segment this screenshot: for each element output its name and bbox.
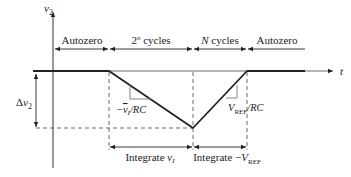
integrate-vi-label: Integrate vI <box>125 151 175 165</box>
slope-label-down: −vI/RC <box>117 104 147 117</box>
delta-v2-label: Δv2 <box>16 96 32 111</box>
phase-label-autozero-1: Autozero <box>62 34 103 46</box>
delta-v2-arrow <box>33 71 40 127</box>
phase-label-n-cycles: N cycles <box>200 34 239 46</box>
phase-label-2n-cycles: 2n cycles <box>131 34 170 46</box>
integrate-vref-label: Integrate −VREF <box>193 151 261 166</box>
integrator-waveform <box>33 71 305 128</box>
v2-axis-label: v2 <box>44 2 53 17</box>
dual-slope-waveform-diagram: v2 Autozero 2n cycles N cycles Autozero … <box>0 0 351 177</box>
phase-label-autozero-2: Autozero <box>257 34 298 46</box>
slope-label-up: VREF/RC <box>228 102 265 116</box>
t-axis-label: t <box>340 65 344 77</box>
